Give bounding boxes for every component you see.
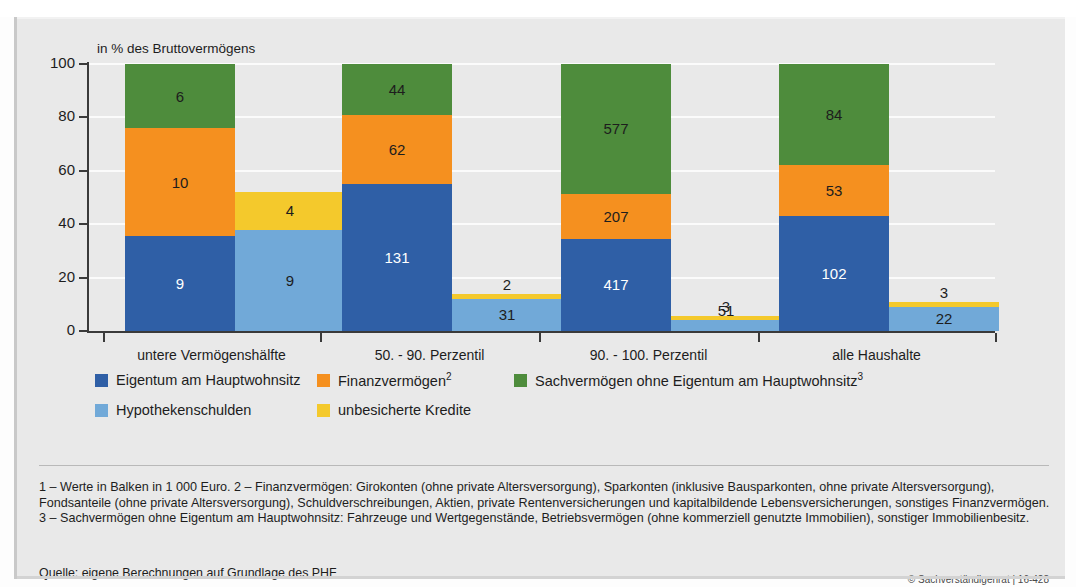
x-category-label-3: 90. - 100. Perzentil <box>539 347 758 363</box>
legend-swatch-icon <box>317 404 330 417</box>
bar-assets-group-4[interactable]: 1025384 <box>779 64 889 331</box>
bar-segment[interactable]: 577 <box>561 64 671 193</box>
legend-swatch-icon <box>95 374 108 387</box>
plot-area: in % des Bruttovermögens 020406080100 91… <box>17 17 1065 357</box>
x-category-label-4: alle Haushalte <box>758 347 995 363</box>
legend-label: Eigentum am Hauptwohnsitz <box>116 372 301 388</box>
y-tick-label-100: 100 <box>29 57 75 69</box>
bar-segment[interactable] <box>889 302 999 307</box>
legend-label: unbesicherte Kredite <box>338 402 471 418</box>
bar-value-label: 417 <box>603 277 628 292</box>
legend-row-2: Hypothekenschuldenunbesicherte Kredite <box>17 399 1065 421</box>
bar-value-label: 3 <box>889 284 999 301</box>
legend-swatch-icon <box>514 374 527 387</box>
bar-value-label: 84 <box>826 107 843 122</box>
legend-item[interactable]: Finanzvermögen2 <box>317 369 452 391</box>
bar-value-label: 2 <box>452 276 562 293</box>
bar-value-label: 131 <box>384 250 409 265</box>
bar-segment[interactable]: 62 <box>342 115 452 184</box>
y-tick-label-80: 80 <box>29 110 75 122</box>
legend-label: Finanzvermögen2 <box>338 371 452 389</box>
bar-segment[interactable] <box>671 320 781 331</box>
bar-value-label: 3 <box>671 298 781 315</box>
bar-segment[interactable]: 22 <box>889 307 999 331</box>
bar-segment[interactable]: 84 <box>779 64 889 165</box>
y-tick-label-40: 40 <box>29 217 75 229</box>
figure-page: in % des Bruttovermögens 020406080100 91… <box>0 0 1076 587</box>
y-tick-label-0: 0 <box>29 324 75 336</box>
bar-value-label: 9 <box>176 276 184 291</box>
legend-item[interactable]: Hypothekenschulden <box>95 399 251 421</box>
bar-value-label: 31 <box>499 307 516 322</box>
footnote-text: 1 – Werte in Balken in 1 000 Euro. 2 – F… <box>39 480 1055 527</box>
bar-segment[interactable]: 10 <box>125 128 235 236</box>
bar-value-label: 10 <box>172 175 189 190</box>
legend-row-1: Eigentum am HauptwohnsitzFinanzvermögen2… <box>17 369 1065 391</box>
chart-legend: Eigentum am HauptwohnsitzFinanzvermögen2… <box>17 369 1065 429</box>
bar-assets-group-2[interactable]: 1316244 <box>342 64 452 331</box>
x-tick-2 <box>539 333 541 342</box>
bar-segment[interactable]: 31 <box>452 299 562 331</box>
bar-segment[interactable]: 6 <box>125 64 235 128</box>
bar-value-label: 102 <box>821 266 846 281</box>
bar-segment[interactable]: 4 <box>235 192 345 229</box>
legend-item[interactable]: Sachvermögen ohne Eigentum am Hauptwohns… <box>514 369 863 391</box>
bar-value-label: 22 <box>936 311 953 326</box>
x-tick-0 <box>103 333 105 342</box>
legend-label: Hypothekenschulden <box>116 402 251 418</box>
cut-off-title-strip <box>0 0 1076 17</box>
bar-value-label: 4 <box>286 203 294 218</box>
y-axis-line <box>87 62 89 333</box>
bar-segment[interactable]: 131 <box>342 184 452 331</box>
bar-value-label: 577 <box>603 121 628 136</box>
bar-value-label: 207 <box>603 209 628 224</box>
bar-value-label: 62 <box>389 142 406 157</box>
bar-value-label: 6 <box>176 89 184 104</box>
bar-segment[interactable]: 9 <box>235 230 345 331</box>
bar-debts-group-1[interactable]: 94 <box>235 64 345 331</box>
bar-segment[interactable]: 53 <box>779 165 889 216</box>
bar-debts-group-4[interactable]: 223 <box>889 64 999 331</box>
bar-value-label: 9 <box>286 273 294 288</box>
footnote-divider <box>39 465 1049 466</box>
bar-segment[interactable] <box>671 316 781 320</box>
legend-swatch-icon <box>317 374 330 387</box>
y-axis-unit-label: in % des Bruttovermögens <box>97 41 255 56</box>
bar-value-label: 44 <box>389 82 406 97</box>
bar-assets-group-3[interactable]: 417207577 <box>561 64 671 331</box>
legend-label: Sachvermögen ohne Eigentum am Hauptwohns… <box>535 371 863 389</box>
bar-segment[interactable]: 44 <box>342 64 452 115</box>
legend-item[interactable]: unbesicherte Kredite <box>317 399 471 421</box>
bar-segment[interactable]: 9 <box>125 236 235 331</box>
y-tick-label-20: 20 <box>29 271 75 283</box>
y-tick-label-60: 60 <box>29 164 75 176</box>
bar-value-label: 53 <box>826 183 843 198</box>
x-tick-4 <box>995 333 997 342</box>
x-category-label-2: 50. - 90. Perzentil <box>320 347 539 363</box>
bar-assets-group-1[interactable]: 9106 <box>125 64 235 331</box>
bar-segment[interactable]: 207 <box>561 194 671 239</box>
x-tick-3 <box>758 333 760 342</box>
bar-segment[interactable]: 102 <box>779 216 889 331</box>
legend-swatch-icon <box>95 404 108 417</box>
bar-segment[interactable] <box>452 294 562 299</box>
x-category-label-1: untere Vermögenshälfte <box>103 347 320 363</box>
legend-item[interactable]: Eigentum am Hauptwohnsitz <box>95 369 301 391</box>
bar-segment[interactable]: 417 <box>561 239 671 331</box>
bar-debts-group-3[interactable]: 513 <box>671 64 781 331</box>
panel-bottom-edge <box>17 576 1065 579</box>
chart-figure-panel: in % des Bruttovermögens 020406080100 91… <box>14 17 1065 579</box>
bar-debts-group-2[interactable]: 312 <box>452 64 562 331</box>
x-tick-1 <box>320 333 322 342</box>
x-axis-line <box>87 331 995 333</box>
